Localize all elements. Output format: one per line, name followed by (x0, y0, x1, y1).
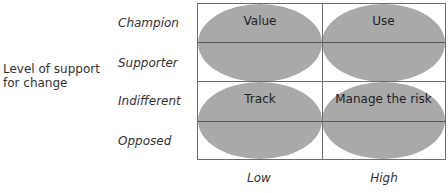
row-divider (322, 121, 445, 122)
quadrant-bottom-left: Track (198, 82, 322, 159)
quadrant-top-right: Use (322, 4, 445, 82)
y-axis-title: Level of support for change (3, 62, 113, 90)
quadrant-label-value: Value (198, 14, 322, 28)
row-divider (198, 42, 322, 43)
quadrant-bottom-right: Manage the risk (322, 82, 445, 159)
y-axis-title-line-2: for change (3, 76, 113, 90)
y-axis-title-line-1: Level of support (3, 62, 113, 76)
row-label-supporter: Supporter (118, 56, 178, 70)
row-label-champion: Champion (118, 16, 179, 30)
quadrant-label-use: Use (322, 14, 445, 28)
quadrant-grid: Value Use Track Manage the risk (197, 3, 446, 160)
quadrant-label-manage-the-risk: Manage the risk (322, 92, 445, 106)
quadrant-label-track: Track (198, 92, 322, 106)
row-label-opposed: Opposed (118, 134, 171, 148)
quadrant-top-left: Value (198, 4, 322, 82)
row-label-indifferent: Indifferent (118, 94, 181, 108)
col-label-high: High (322, 171, 446, 185)
quadrant-divider (198, 81, 445, 82)
row-divider (198, 121, 322, 122)
row-divider (322, 42, 445, 43)
col-label-low: Low (197, 171, 321, 185)
